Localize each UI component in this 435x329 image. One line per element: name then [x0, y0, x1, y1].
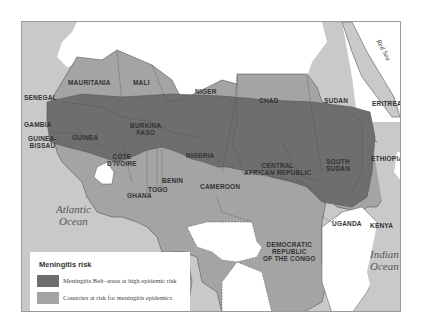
legend-item-belt: Meningitis Belt–areas at high epidemic r…: [37, 274, 177, 287]
water-label-indian-ocean: Indian Ocean: [370, 248, 399, 272]
at-risk-swatch: [37, 292, 59, 304]
country-label-kenya: KENYA: [370, 222, 393, 229]
country-label-nigeria: NIGERIA: [186, 152, 215, 159]
country-label-benin: BENIN: [162, 177, 183, 184]
country-label-togo: TOGO: [148, 186, 168, 193]
country-label-eritrea: ERITREA: [372, 100, 401, 107]
meningitis-map: MAURITANIA MALI NIGER CHAD SUDAN ERITREA…: [21, 21, 401, 312]
country-label-mauritania: MAURITANIA: [68, 79, 111, 86]
country-label-sudan: SUDAN: [324, 97, 348, 104]
country-label-senegal: SENEGAL: [24, 94, 57, 101]
country-label-cote-divoire: CÔTE D'IVOIRE: [107, 153, 137, 167]
country-label-dr-congo: DEMOCRATIC REPUBLIC OF THE CONGO: [263, 241, 316, 262]
country-label-ghana: GHANA: [127, 192, 152, 199]
legend-label-at-risk: Countries at risk for meningitis epidemi…: [63, 294, 172, 301]
country-label-guinea-bissau: GUINEA- BISSAU: [28, 135, 57, 149]
legend: Meningitis risk Meningitis Belt–areas at…: [30, 252, 190, 312]
legend-label-belt: Meningitis Belt–areas at high epidemic r…: [63, 277, 177, 284]
country-label-south-sudan: SOUTH SUDAN: [326, 158, 350, 172]
legend-title: Meningitis risk: [39, 260, 92, 269]
country-label-ethiopia: ETHIOPIA: [371, 155, 401, 162]
country-label-gambia: GAMBIA: [24, 121, 52, 128]
country-label-cameroon: CAMEROON: [200, 183, 240, 190]
country-label-chad: CHAD: [259, 97, 279, 104]
country-label-central-african-republic: CENTRAL AFRICAN REPUBLIC: [244, 162, 311, 176]
water-label-atlantic-ocean: Atlantic Ocean: [56, 203, 91, 227]
belt-swatch: [37, 275, 59, 287]
country-label-niger: NIGER: [195, 88, 217, 95]
country-label-burkina-faso: BURKINA FASO: [130, 122, 161, 136]
country-label-guinea: GUINEA: [72, 134, 98, 141]
legend-item-at-risk: Countries at risk for meningitis epidemi…: [37, 291, 172, 304]
country-label-mali: MALI: [133, 79, 150, 86]
country-label-uganda: UGANDA: [332, 220, 362, 227]
